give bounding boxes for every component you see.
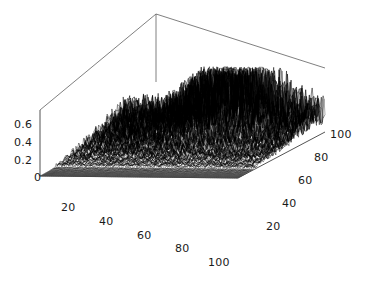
x-tick-2: 60 xyxy=(137,230,151,241)
y-tick-4: 20 xyxy=(266,221,280,232)
surface-plot-figure: 0.60.40.20 20406080100 10080604020 xyxy=(0,0,365,284)
z-tick-3: 0 xyxy=(34,172,41,183)
y-tick-0: 100 xyxy=(330,129,352,140)
z-tick-1: 0.4 xyxy=(14,137,32,148)
y-tick-3: 40 xyxy=(282,198,296,209)
x-tick-0: 20 xyxy=(61,202,75,213)
z-tick-2: 0.2 xyxy=(14,155,32,166)
box-edge-top-left xyxy=(40,14,156,110)
y-tick-2: 60 xyxy=(298,175,312,186)
x-tick-4: 100 xyxy=(208,257,230,268)
z-tick-0: 0.6 xyxy=(14,119,32,130)
box-edge-top-right xyxy=(156,14,325,68)
y-tick-1: 80 xyxy=(314,152,328,163)
x-tick-3: 80 xyxy=(175,243,189,254)
x-tick-1: 40 xyxy=(99,216,113,227)
surface-mesh xyxy=(40,67,325,178)
